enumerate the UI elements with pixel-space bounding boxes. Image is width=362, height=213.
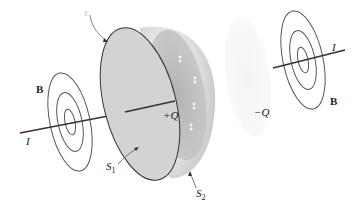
b-field-label-right: B (330, 96, 337, 107)
magnetic-field-loops-left (40, 69, 100, 175)
negative-plate (218, 15, 278, 140)
top-marker-label: ε (84, 7, 89, 18)
surface-s2-label: S2 (196, 188, 206, 202)
current-label-right: I (332, 42, 336, 53)
plus-q-label: +Q (163, 110, 178, 121)
top-marker-pointer (90, 15, 108, 42)
surface-s1-label: S1 (106, 161, 116, 175)
capacitor-ampere-diagram (0, 0, 362, 213)
minus-q-label: −Q (254, 107, 269, 118)
current-label-left: I (26, 136, 30, 147)
b-field-label-left: B (36, 84, 43, 95)
